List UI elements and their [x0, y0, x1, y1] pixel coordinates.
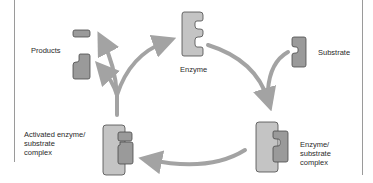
substrate-shape: [292, 37, 306, 67]
arrow-substrate-join: [268, 52, 288, 90]
arrow-release-enzyme: [117, 42, 165, 95]
products-shapes: [73, 30, 90, 79]
enzyme-substrate-complex-shape: [256, 122, 288, 172]
activated-complex-shape: [103, 125, 133, 175]
arrow-enzyme-to-complex: [208, 45, 268, 100]
enzyme-shape: [182, 12, 203, 56]
arrow-complex-to-activated: [150, 150, 245, 164]
label-enzyme: Enzyme: [180, 65, 207, 74]
label-substrate: Substrate: [318, 48, 350, 57]
label-enzyme-substrate-complex: Enzyme/ substrate complex: [300, 140, 331, 167]
label-activated-complex: Activated enzyme/ substrate complex: [24, 130, 85, 157]
label-products: Products: [31, 46, 61, 55]
